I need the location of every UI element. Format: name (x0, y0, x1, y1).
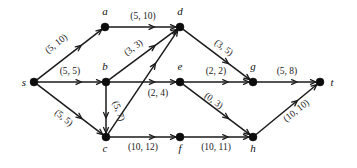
edge-label-e-g: (2, 2) (206, 66, 227, 77)
node-a (101, 23, 109, 31)
node-label-a: a (102, 5, 108, 17)
edge-s-c (37, 84, 103, 134)
node-h (249, 133, 257, 141)
edge-label-s-a: (5, 10) (43, 32, 70, 56)
node-b (102, 78, 110, 86)
edge-b-d (109, 29, 177, 79)
edge-label-b-e: (2, 4) (148, 88, 169, 99)
graph-canvas: sabcdefght (5, 10)(5, 5)(5, 5)(5, 10)(3,… (0, 0, 357, 168)
edge-label-g-t: (5, 8) (277, 66, 298, 77)
node-label-e: e (178, 60, 183, 72)
node-label-s: s (22, 76, 26, 88)
edge-e-h (183, 84, 250, 134)
flow-network-diagram: sabcdefght (5, 10)(5, 5)(5, 5)(5, 10)(3,… (0, 0, 357, 168)
edge-h-t (256, 85, 317, 135)
edge-label-f-h: (10, 11) (201, 142, 231, 153)
node-f (176, 133, 184, 141)
edge-label-a-d: (5, 10) (130, 11, 155, 22)
node-g (249, 78, 257, 86)
node-s (30, 78, 38, 86)
node-t (316, 78, 324, 86)
edge-label-b-c: (5, 7) (110, 100, 127, 123)
node-label-h: h (250, 142, 256, 154)
node-label-b: b (102, 60, 108, 72)
node-label-d: d (177, 5, 183, 17)
node-label-t: t (330, 76, 334, 88)
node-d (176, 23, 184, 31)
node-label-f: f (178, 142, 183, 154)
node-label-g: g (250, 60, 256, 72)
edge-label-d-g: (3, 5) (212, 37, 235, 58)
node-label-c: c (103, 142, 108, 154)
edge-label-c-f: (10, 12) (128, 142, 158, 153)
edge-label-s-b: (5, 5) (60, 66, 81, 77)
node-c (102, 133, 110, 141)
node-e (176, 78, 184, 86)
